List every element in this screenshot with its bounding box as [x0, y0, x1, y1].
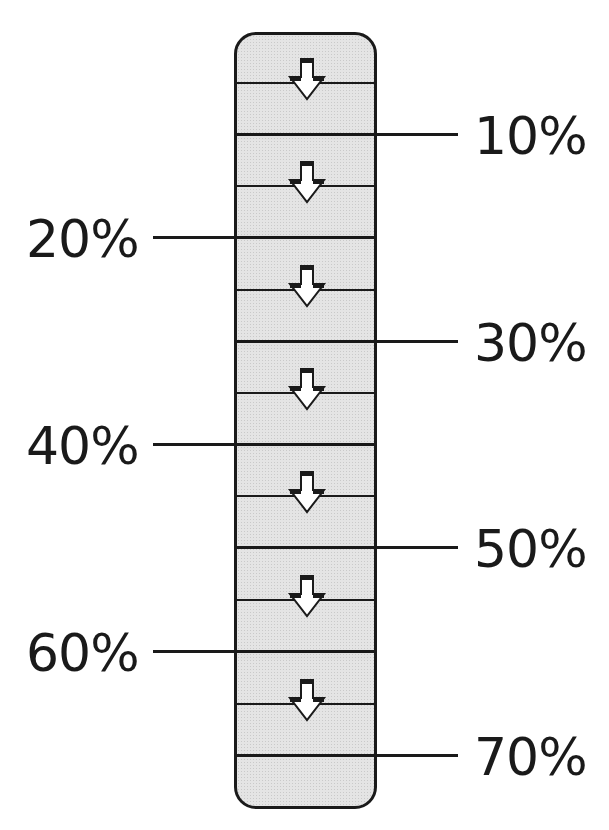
marker-label-30: 30% [474, 317, 587, 369]
segment-divider-60 [237, 650, 374, 653]
down-arrow-icon [287, 574, 327, 624]
leader-line-50 [375, 546, 458, 549]
segment-divider-40 [237, 443, 374, 446]
marker-label-50: 50% [474, 523, 587, 575]
leader-line-70 [375, 754, 458, 757]
marker-label-60: 60% [26, 627, 139, 679]
down-arrow-icon [287, 678, 327, 728]
leader-line-20 [153, 236, 234, 239]
segment-divider-50 [237, 546, 374, 549]
down-arrow-icon [287, 470, 327, 520]
segment-divider-70 [237, 754, 374, 757]
leader-line-40 [153, 443, 234, 446]
segment-divider-30 [237, 340, 374, 343]
segment-divider-20 [237, 236, 374, 239]
marker-label-70: 70% [474, 731, 587, 783]
down-arrow-icon [287, 160, 327, 210]
down-arrow-icon [287, 367, 327, 417]
down-arrow-icon [287, 57, 327, 107]
gauge-column [234, 32, 377, 809]
marker-label-40: 40% [26, 420, 139, 472]
marker-label-10: 10% [474, 110, 587, 162]
segment-divider-10 [237, 133, 374, 136]
leader-line-60 [153, 650, 234, 653]
leader-line-10 [375, 133, 458, 136]
marker-label-20: 20% [26, 213, 139, 265]
down-arrow-icon [287, 264, 327, 314]
leader-line-30 [375, 340, 458, 343]
